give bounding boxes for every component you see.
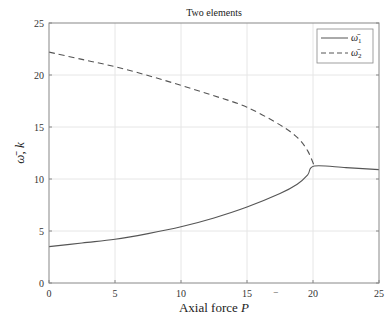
y-tick-label: 20 xyxy=(34,70,44,81)
legend-box xyxy=(317,29,373,63)
y-tick-label: 15 xyxy=(34,122,44,133)
series-line-2 xyxy=(49,52,314,166)
y-axis-label: ω̄, k xyxy=(12,142,27,164)
data-curves xyxy=(49,52,379,247)
y-tick-label: 5 xyxy=(39,226,44,237)
x-tick-label: 15 xyxy=(242,288,252,299)
x-tick-label: 10 xyxy=(176,288,186,299)
x-tick-label: 25 xyxy=(374,288,384,299)
x-tick-label: 5 xyxy=(113,288,118,299)
x-axis-label-bar: ‾ xyxy=(273,291,278,303)
x-tick-label: 20 xyxy=(308,288,318,299)
y-tick-label: 25 xyxy=(34,18,44,29)
y-tick-label: 10 xyxy=(34,174,44,185)
x-tick-label: 0 xyxy=(47,288,52,299)
series-line-1 xyxy=(49,166,379,247)
chart-title: Two elements xyxy=(186,7,242,18)
chart: 05101520250510152025 Two elements Axial … xyxy=(0,0,392,323)
legend: ω̄1 ω̄2 xyxy=(317,29,373,63)
y-tick-label: 0 xyxy=(39,278,44,289)
x-axis-label: Axial force P xyxy=(179,300,249,315)
